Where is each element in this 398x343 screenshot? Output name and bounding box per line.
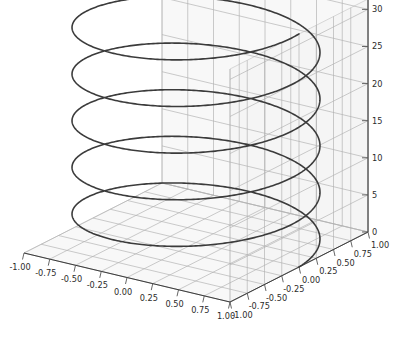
- y-tick-mark: [247, 293, 249, 300]
- z-tick-label: 15: [372, 116, 382, 126]
- x-tick-label: 0.25: [140, 293, 158, 303]
- z-tick-label: 20: [372, 79, 382, 89]
- y-tick-label: 0.75: [354, 249, 372, 259]
- y-tick-mark: [316, 258, 318, 265]
- x-tick-label: -1.00: [9, 262, 30, 272]
- x-tick-label: -0.50: [61, 274, 82, 284]
- y-tick-mark: [265, 285, 267, 292]
- x-tick-mark: [203, 296, 205, 303]
- x-tick-mark: [177, 290, 179, 297]
- y-tick-label: 0.25: [319, 266, 337, 276]
- y-tick-mark: [299, 267, 301, 274]
- y-tick-label: -1.00: [231, 310, 252, 320]
- x-tick-mark: [126, 278, 128, 285]
- x-tick-label: -0.25: [87, 280, 108, 290]
- z-tick-label: 0: [372, 227, 377, 237]
- y-tick-mark: [368, 232, 370, 239]
- z-tick-label: 5: [372, 190, 377, 200]
- x-tick-mark: [74, 265, 76, 272]
- x-tick-label: -0.75: [35, 268, 56, 278]
- y-tick-label: 0.00: [302, 275, 320, 285]
- y-tick-mark: [230, 302, 232, 309]
- x-tick-label: 0.75: [191, 305, 209, 315]
- x-tick-label: 0.00: [114, 287, 132, 297]
- plot-3d-axes: -1.00-0.75-0.50-0.250.000.250.500.751.00…: [0, 0, 398, 343]
- y-tick-mark: [334, 250, 336, 257]
- z-tick-label: 25: [372, 41, 382, 51]
- figure-canvas: -1.00-0.75-0.50-0.250.000.250.500.751.00…: [0, 0, 398, 343]
- x-tick-mark: [48, 259, 50, 266]
- y-tick-label: 0.50: [336, 258, 354, 268]
- x-tick-mark: [100, 271, 102, 278]
- x-tick-mark: [151, 284, 153, 291]
- x-tick-label: 0.50: [165, 299, 183, 309]
- z-tick-label: 30: [372, 4, 382, 14]
- y-tick-label: 1.00: [371, 240, 389, 250]
- z-tick-label: 10: [372, 153, 382, 163]
- y-tick-mark: [351, 241, 353, 248]
- y-tick-mark: [282, 276, 284, 283]
- x-tick-mark: [23, 253, 25, 260]
